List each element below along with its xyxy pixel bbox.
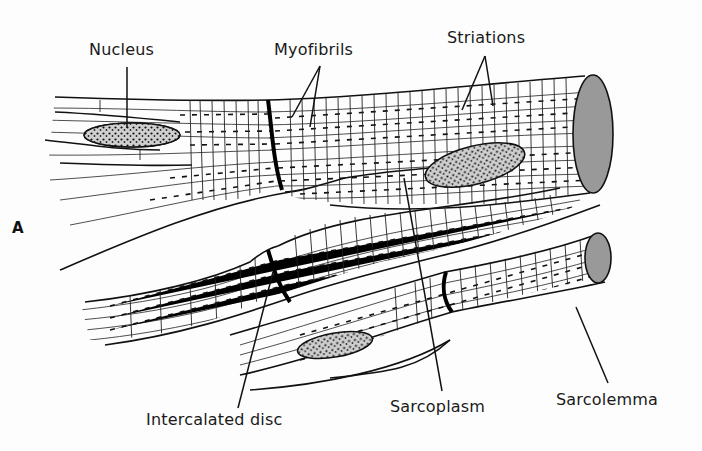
panel-label: A (12, 219, 24, 237)
leader-sarcolemma (576, 307, 608, 383)
nucleus-upper-right (421, 134, 529, 196)
fiber-cut-end-lower (585, 233, 611, 283)
nucleus-lower (295, 327, 374, 364)
cardiac-muscle-diagram: A Nucleus Myofibrils Striations Intercal… (0, 0, 702, 451)
fiber-upper-left (40, 97, 290, 270)
label-intercalated-disc: Intercalated disc (146, 410, 283, 429)
leader-striations-a (462, 56, 485, 110)
diagram-illustration (0, 0, 702, 451)
fiber-upper-right (265, 76, 590, 209)
label-nucleus: Nucleus (89, 40, 154, 59)
label-myofibrils: Myofibrils (274, 40, 353, 59)
label-sarcoplasm: Sarcoplasm (390, 397, 485, 416)
fiber-cut-end-upper (573, 75, 613, 193)
leader-striations-b (485, 56, 493, 106)
label-sarcolemma: Sarcolemma (556, 390, 658, 409)
intercalated-disc-upper (268, 100, 282, 190)
leader-intercalated-disc (238, 272, 273, 408)
label-striations: Striations (447, 28, 525, 47)
